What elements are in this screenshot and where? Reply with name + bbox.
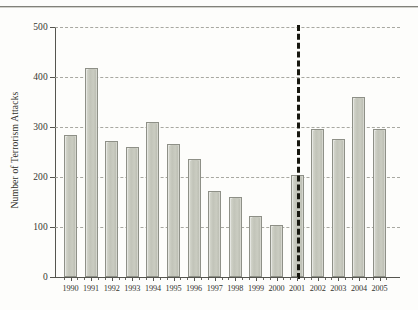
x-tick-minor-1997-1 (222, 277, 223, 280)
x-tick-minor-1990-1 (77, 277, 78, 280)
y-tick-300 (50, 127, 55, 128)
x-tick-minor-1996-1 (201, 277, 202, 280)
x-tick-minor-1991-0 (84, 277, 85, 280)
x-tick-minor-2001-0 (290, 277, 291, 280)
bar-1999 (249, 216, 262, 277)
x-tick-minor-1998-1 (242, 277, 243, 280)
y-tick-label-100: 100 (33, 222, 48, 232)
x-tick-1992 (112, 277, 113, 281)
x-tick-label-2005: 2005 (372, 284, 388, 293)
x-tick-label-2002: 2002 (310, 284, 326, 293)
x-tick-minor-1998-0 (228, 277, 229, 280)
x-tick-2004 (359, 277, 360, 281)
bar-1996 (188, 159, 201, 278)
y-tick-label-500: 500 (33, 22, 48, 32)
bar-1991 (85, 68, 98, 277)
page-top-rule (0, 6, 418, 8)
x-tick-1996 (194, 277, 195, 281)
x-tick-minor-1993-1 (139, 277, 140, 280)
x-tick-minor-2004-0 (352, 277, 353, 280)
x-tick-1991 (91, 277, 92, 281)
y-tick-100 (50, 227, 55, 228)
y-tick-500 (50, 27, 55, 28)
bar-1993 (126, 147, 139, 278)
y-tick-label-0: 0 (43, 272, 48, 282)
gridline-500 (55, 27, 400, 28)
x-tick-label-1994: 1994 (145, 284, 161, 293)
x-tick-minor-2001-1 (304, 277, 305, 280)
x-tick-2001 (297, 277, 298, 281)
x-tick-minor-1995-1 (180, 277, 181, 280)
x-tick-label-1996: 1996 (186, 284, 202, 293)
bar-1990 (64, 135, 77, 278)
x-tick-1998 (235, 277, 236, 281)
x-tick-label-2004: 2004 (351, 284, 367, 293)
x-tick-minor-2003-1 (345, 277, 346, 280)
y-axis-title: Number of Terrorism Attacks (9, 92, 20, 209)
gridline-300 (55, 127, 400, 128)
x-tick-minor-1994-0 (146, 277, 147, 280)
x-tick-minor-2005-0 (373, 277, 374, 280)
x-tick-minor-1999-0 (249, 277, 250, 280)
x-tick-minor-1992-0 (105, 277, 106, 280)
x-tick-minor-1991-1 (98, 277, 99, 280)
x-tick-minor-1995-0 (167, 277, 168, 280)
x-tick-2005 (380, 277, 381, 281)
x-tick-1995 (174, 277, 175, 281)
bar-2002 (311, 129, 324, 278)
x-tick-label-2001: 2001 (289, 284, 305, 293)
bar-2003 (332, 139, 345, 278)
bar-1995 (167, 144, 180, 277)
terrorism-attacks-bar-chart: Number of Terrorism Attacks 010020030040… (0, 0, 418, 310)
bar-2004 (352, 97, 365, 277)
x-tick-2003 (338, 277, 339, 281)
x-tick-minor-1997-0 (208, 277, 209, 280)
divider-line-2001 (297, 25, 300, 279)
x-tick-minor-2005-1 (386, 277, 387, 280)
bar-2005 (373, 129, 386, 278)
x-tick-label-2000: 2000 (269, 284, 285, 293)
x-tick-minor-2000-1 (283, 277, 284, 280)
x-tick-1990 (71, 277, 72, 281)
x-tick-minor-2000-0 (270, 277, 271, 280)
x-tick-minor-1999-1 (263, 277, 264, 280)
bar-1994 (146, 122, 159, 278)
x-tick-minor-1993-0 (125, 277, 126, 280)
y-tick-0 (50, 277, 55, 278)
x-tick-minor-1994-1 (160, 277, 161, 280)
x-tick-1999 (256, 277, 257, 281)
x-tick-minor-2004-1 (366, 277, 367, 280)
x-tick-minor-1990-0 (64, 277, 65, 280)
x-tick-label-1991: 1991 (83, 284, 99, 293)
bar-1992 (105, 141, 118, 278)
x-tick-1994 (153, 277, 154, 281)
x-tick-label-1997: 1997 (207, 284, 223, 293)
bar-1998 (229, 197, 242, 277)
x-tick-label-1999: 1999 (248, 284, 264, 293)
x-tick-label-1998: 1998 (227, 284, 243, 293)
x-tick-label-1995: 1995 (166, 284, 182, 293)
y-tick-400 (50, 77, 55, 78)
x-tick-minor-2003-0 (331, 277, 332, 280)
x-tick-label-2003: 2003 (330, 284, 346, 293)
x-tick-minor-2002-0 (311, 277, 312, 280)
bar-2000 (270, 225, 283, 278)
x-tick-2002 (318, 277, 319, 281)
y-tick-label-200: 200 (33, 172, 48, 182)
x-tick-minor-1992-1 (119, 277, 120, 280)
y-tick-label-400: 400 (33, 72, 48, 82)
gridline-400 (55, 77, 400, 78)
x-tick-label-1993: 1993 (124, 284, 140, 293)
x-tick-label-1992: 1992 (104, 284, 120, 293)
x-tick-minor-2002-1 (325, 277, 326, 280)
x-tick-1993 (132, 277, 133, 281)
y-tick-label-300: 300 (33, 122, 48, 132)
x-tick-label-1990: 1990 (63, 284, 79, 293)
y-tick-200 (50, 177, 55, 178)
bar-1997 (208, 191, 221, 277)
x-tick-1997 (215, 277, 216, 281)
x-tick-2000 (277, 277, 278, 281)
plot-area: 0100200300400500 (55, 27, 400, 277)
x-tick-minor-1996-0 (187, 277, 188, 280)
